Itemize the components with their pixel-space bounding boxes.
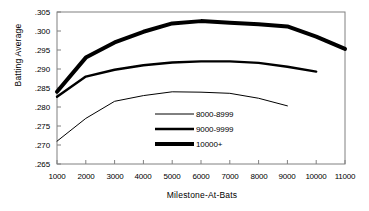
x-tick-marks <box>57 160 345 164</box>
legend-swatches <box>155 114 194 144</box>
plot-frame <box>57 12 345 164</box>
plot-area <box>0 0 369 211</box>
series-line-9000-9999 <box>57 61 316 96</box>
series-line-8000-8999 <box>57 92 287 141</box>
chart-container: Batting Average .305 .300 .295 .290 .285… <box>0 0 369 211</box>
series-lines <box>57 21 345 141</box>
series-line-10000plus <box>57 21 345 92</box>
